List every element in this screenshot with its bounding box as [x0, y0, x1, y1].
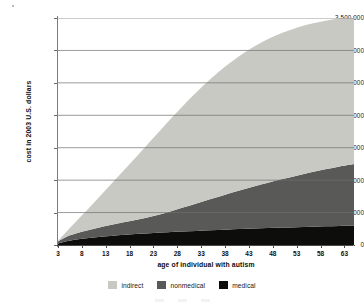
stacked-area-chart: 3,500,0003,000,0002,500,0002,000,0001,50… — [0, 0, 364, 306]
legend-label-medical: medical — [232, 282, 255, 289]
x-axis-tick — [106, 245, 107, 248]
x-axis-tick — [153, 245, 154, 248]
legend-item-medical[interactable]: medical — [219, 281, 255, 289]
legend-swatch-medical — [219, 281, 228, 289]
area-series-svg — [58, 18, 354, 245]
scan-artifact-3 — [201, 299, 210, 302]
x-axis-tick — [130, 245, 131, 248]
legend-label-nonmedical: nonmedical — [170, 282, 205, 289]
scan-artifact-1 — [155, 299, 164, 302]
scan-artifact-row — [0, 299, 364, 303]
y-axis-title: cost in 2003 U.S. dollars — [25, 42, 32, 202]
x-axis-tick-label: 13 — [94, 250, 118, 258]
plot-area — [58, 18, 354, 245]
x-axis-tick-label: 48 — [261, 250, 285, 258]
x-axis-title: age of individual with autism — [58, 261, 354, 268]
x-axis-tick-label: 33 — [189, 250, 213, 258]
x-axis-tick — [321, 245, 322, 248]
x-axis-tick — [201, 245, 202, 248]
x-axis-tick — [297, 245, 298, 248]
x-axis-tick-label: 3 — [46, 250, 70, 258]
x-axis-tick — [344, 245, 345, 248]
x-axis-tick — [82, 245, 83, 248]
x-axis-line — [57, 245, 355, 246]
legend-item-indirect[interactable]: indirect — [108, 281, 143, 289]
x-axis-tick-label: 38 — [213, 250, 237, 258]
legend-label-indirect: indirect — [121, 282, 143, 289]
chart-legend: indirect nonmedical medical — [0, 281, 364, 289]
x-axis-tick-label: 58 — [309, 250, 333, 258]
scan-artifact-speck — [12, 5, 14, 7]
legend-item-nonmedical[interactable]: nonmedical — [157, 281, 205, 289]
x-axis-tick-label: 53 — [285, 250, 309, 258]
x-axis-tick-label: 63 — [332, 250, 356, 258]
x-axis-tick-label: 8 — [70, 250, 94, 258]
x-axis-tick — [273, 245, 274, 248]
x-axis-tick — [177, 245, 178, 248]
x-axis-tick — [225, 245, 226, 248]
scan-artifact-2 — [178, 299, 187, 302]
x-axis-tick-label: 18 — [118, 250, 142, 258]
legend-swatch-nonmedical — [157, 281, 166, 289]
plot-area-wrapper — [58, 18, 354, 245]
x-axis-tick-label: 43 — [237, 250, 261, 258]
x-axis-tick-label: 23 — [141, 250, 165, 258]
x-axis-tick — [249, 245, 250, 248]
legend-swatch-indirect — [108, 281, 117, 289]
x-axis-tick — [58, 245, 59, 248]
x-axis-tick-label: 28 — [165, 250, 189, 258]
